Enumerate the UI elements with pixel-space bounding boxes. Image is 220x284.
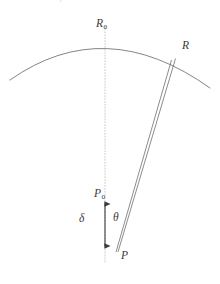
label-p-zero-subscript: 0 bbox=[101, 193, 105, 201]
label-r-zero: R0 bbox=[96, 18, 107, 31]
label-p: P bbox=[121, 250, 128, 262]
sight-line-outer bbox=[118, 59, 176, 253]
label-r: R bbox=[182, 40, 189, 52]
label-r-zero-subscript: 0 bbox=[103, 23, 107, 31]
parallax-figure: Rationale for parallax correction and di… bbox=[0, 0, 220, 284]
label-delta: δ bbox=[79, 213, 84, 225]
label-p-zero: P0 bbox=[94, 188, 105, 201]
sight-line-inner bbox=[116, 60, 172, 252]
label-p-base: P bbox=[121, 249, 128, 261]
label-p-zero-base: P bbox=[94, 187, 101, 199]
label-theta: θ bbox=[113, 212, 119, 224]
label-r-base: R bbox=[182, 39, 189, 51]
label-r-zero-base: R bbox=[96, 17, 103, 29]
horizon-arc bbox=[10, 48, 210, 88]
